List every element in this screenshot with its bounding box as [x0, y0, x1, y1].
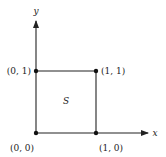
point-0-1 [34, 69, 38, 73]
point-label-1-1: (1, 1) [101, 66, 125, 76]
x-axis-label: x [152, 128, 157, 138]
point-1-1 [94, 69, 98, 73]
region-label: S [63, 96, 69, 106]
y-axis-label: y [32, 6, 39, 16]
point-0-0 [34, 131, 38, 135]
point-label-0-1: (0, 1) [7, 66, 31, 76]
point-label-1-0: (1, 0) [99, 143, 123, 153]
diagram-canvas: y x S (0, 1) (1, 1) (0, 0) (1, 0) [0, 0, 166, 157]
point-1-0 [94, 131, 98, 135]
point-label-0-0: (0, 0) [10, 143, 34, 153]
